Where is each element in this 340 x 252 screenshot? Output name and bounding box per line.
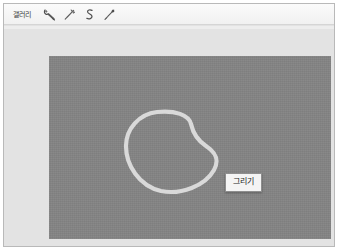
toolbar: 갤러리	[4, 4, 334, 25]
magic-wand-icon	[63, 8, 76, 21]
drawing-tooltip: 그리기	[225, 173, 262, 192]
app-window: 갤러리	[3, 3, 335, 247]
curve-tool-button[interactable]	[79, 5, 99, 23]
wrench-icon	[43, 8, 56, 21]
wrench-tool-button[interactable]	[39, 5, 59, 23]
drawing-canvas[interactable]: 그리기	[49, 56, 331, 239]
brush-icon	[103, 8, 116, 21]
magic-wand-tool-button[interactable]	[59, 5, 79, 23]
curve-tool-icon	[83, 8, 96, 21]
gallery-label[interactable]: 갤러리	[13, 10, 30, 19]
workspace: 그리기	[4, 26, 334, 246]
brush-tool-button[interactable]	[99, 5, 119, 23]
drawn-loop-stroke	[121, 108, 225, 196]
